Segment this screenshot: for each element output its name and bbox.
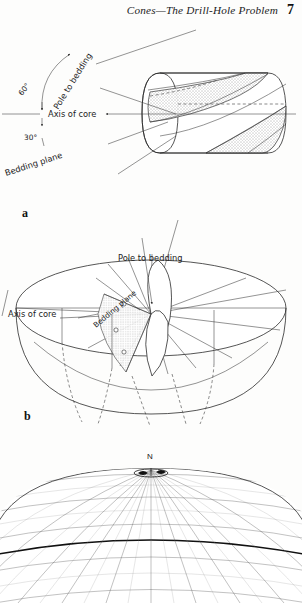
figure-b-label-axis-of-core: Axis of core [8, 309, 56, 319]
sphere-grid [0, 462, 302, 603]
figure-b-label-pole-to-bedding: Pole to bedding [118, 253, 183, 263]
figure-c-stereonet-sphere: N [0, 432, 302, 603]
figure-a-label-bedding-plane: Bedding plane [4, 150, 64, 178]
pole-ray [96, 30, 196, 64]
figure-a-label-angle-60: 60° [16, 81, 31, 97]
scanned-book-page: Cones—The Drill-Hole Problem 7 [0, 0, 302, 603]
figure-a-drill-core: Pole to bedding 60° Axis of core 30° Bed… [0, 18, 302, 218]
page-title: Cones—The Drill-Hole Problem [127, 4, 278, 16]
figure-b-panel-label: b [24, 409, 31, 424]
running-head: Cones—The Drill-Hole Problem 7 [127, 2, 294, 18]
figure-a-label-axis-of-core: Axis of core [48, 109, 96, 119]
figure-b-hemisphere: Pole to bedding Bedding plane Axis of co… [0, 218, 302, 430]
figure-a-label-angle-30: 30° [24, 133, 37, 142]
drill-core-cylinder [142, 73, 286, 153]
angle-arc-30 [42, 118, 44, 146]
figure-c-label-north: N [147, 452, 153, 461]
page-number: 7 [287, 2, 294, 18]
figure-a-label-pole-to-bedding: Pole to bedding [51, 51, 94, 111]
